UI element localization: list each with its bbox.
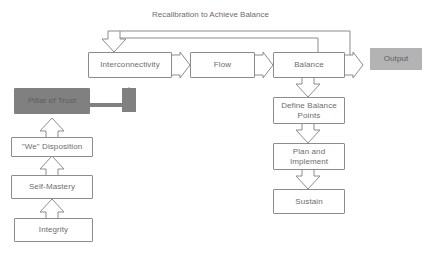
recalibration-caption: Recalibration to Achieve Balance (152, 10, 269, 20)
diagram-canvas: Recalibration to Achieve Balance Interco… (0, 0, 433, 258)
node-sustain[interactable]: Sustain (273, 189, 345, 214)
connector-integrity-to-self-mastery (40, 199, 64, 218)
node-integrity[interactable]: Integrity (14, 218, 93, 242)
connector-self-mastery-to-we-disposition (40, 156, 64, 175)
node-plan-and-implement[interactable]: Plan and Implement (273, 143, 345, 170)
connector-balance-to-define-balance-points (296, 78, 320, 97)
connector-define-balance-points-to-plan-and-implement (296, 124, 320, 143)
node-pillar-of-trust[interactable]: Pillar of Trust (14, 88, 90, 114)
node-output[interactable]: Output (370, 48, 422, 70)
connector-plan-and-implement-to-sustain (296, 170, 320, 189)
node-define-balance-points[interactable]: Define Balance Points (273, 97, 345, 124)
node-interconnectivity[interactable]: Interconnectivity (88, 52, 172, 78)
node-we-disposition[interactable]: "We" Disposition (11, 137, 93, 157)
node-self-mastery[interactable]: Self-Mastery (11, 175, 93, 199)
node-flow[interactable]: Flow (190, 52, 255, 78)
connector-we-disposition-to-pillar-of-trust (40, 118, 64, 137)
connector-flow-to-balance (255, 52, 273, 78)
connector-balance-to-output (345, 52, 363, 78)
node-balance[interactable]: Balance (273, 52, 345, 78)
connector-interconnectivity-to-flow (172, 52, 190, 78)
feedback-loop-inner (120, 38, 318, 52)
